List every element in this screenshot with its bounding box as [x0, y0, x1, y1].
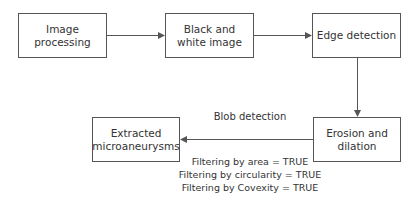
node-black-white-image: Black and white image [165, 13, 254, 58]
node-image-processing: Image processing [18, 13, 107, 58]
edge-label-blob-detection: Blob detection [200, 111, 300, 122]
node-label: Edge detection [317, 29, 396, 42]
node-label: Extracted microaneurysms [92, 127, 179, 152]
node-edge-detection: Edge detection [312, 13, 401, 58]
node-label: Image processing [21, 23, 104, 48]
filter-area: Filtering by area = TRUE [170, 155, 330, 168]
node-label: Black and white image [168, 23, 251, 48]
node-label: Erosion and dilation [316, 127, 398, 152]
node-extracted-microaneurysms: Extracted microaneurysms [92, 117, 180, 162]
filter-convexity: Filtering by Covexity = TRUE [170, 181, 330, 194]
filter-circularity: Filtering by circularity = TRUE [170, 168, 330, 181]
filter-conditions: Filtering by area = TRUE Filtering by ci… [170, 155, 330, 194]
